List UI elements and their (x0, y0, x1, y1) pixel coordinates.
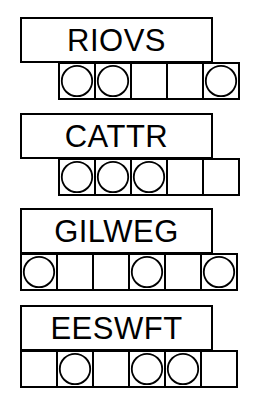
circle-marker-icon (166, 352, 200, 386)
circle-marker-icon (130, 255, 164, 289)
answer-cell-empty[interactable] (166, 62, 204, 100)
circle-marker-icon (130, 352, 164, 386)
answer-cell-filled[interactable] (94, 158, 132, 196)
worksheet-canvas: RIOVSCATTRGILWEGEESWFT (0, 0, 268, 412)
answer-cell-empty[interactable] (130, 62, 168, 100)
word-box: EESWFT (20, 305, 213, 351)
circle-marker-icon (60, 64, 94, 98)
answer-cell-filled[interactable] (202, 62, 240, 100)
answer-cell-filled[interactable] (164, 350, 202, 388)
answer-cell-filled[interactable] (56, 350, 94, 388)
circle-marker-icon (58, 352, 92, 386)
answer-cell-row (58, 158, 240, 196)
answer-cell-empty[interactable] (56, 253, 94, 291)
circle-marker-icon (60, 160, 94, 194)
circle-marker-icon (202, 255, 236, 289)
word-label: EESWFT (50, 313, 182, 344)
answer-cell-filled[interactable] (58, 158, 96, 196)
answer-cell-empty[interactable] (202, 158, 240, 196)
word-box: RIOVS (20, 17, 213, 63)
circle-marker-icon (22, 255, 56, 289)
answer-cell-empty[interactable] (92, 253, 130, 291)
answer-cell-filled[interactable] (128, 350, 166, 388)
answer-cell-row (58, 62, 240, 100)
word-box: GILWEG (20, 208, 213, 254)
circle-marker-icon (204, 64, 238, 98)
answer-cell-filled[interactable] (128, 253, 166, 291)
circle-marker-icon (96, 64, 130, 98)
answer-cell-empty[interactable] (92, 350, 130, 388)
answer-cell-empty[interactable] (164, 253, 202, 291)
circle-marker-icon (96, 160, 130, 194)
answer-cell-filled[interactable] (94, 62, 132, 100)
word-label: RIOVS (67, 25, 166, 56)
answer-cell-filled[interactable] (58, 62, 96, 100)
answer-cell-row (20, 253, 238, 291)
word-label: GILWEG (54, 216, 179, 247)
answer-cell-empty[interactable] (20, 350, 58, 388)
answer-cell-empty[interactable] (166, 158, 204, 196)
circle-marker-icon (132, 160, 166, 194)
word-box: CATTR (20, 113, 213, 159)
answer-cell-empty[interactable] (200, 350, 238, 388)
answer-cell-filled[interactable] (200, 253, 238, 291)
answer-cell-filled[interactable] (20, 253, 58, 291)
word-label: CATTR (65, 121, 169, 152)
answer-cell-row (20, 350, 238, 388)
answer-cell-filled[interactable] (130, 158, 168, 196)
